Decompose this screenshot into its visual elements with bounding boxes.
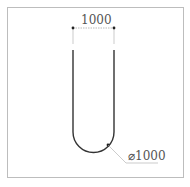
- width-dimension-label: 1000: [81, 14, 112, 26]
- dimension-endpoint-left: [72, 27, 75, 30]
- diameter-dimension-label: ⌀1000: [128, 150, 166, 162]
- width-dimension: [72, 27, 116, 44]
- dimension-endpoint-right: [113, 27, 116, 30]
- u-shape-path: [73, 50, 114, 152]
